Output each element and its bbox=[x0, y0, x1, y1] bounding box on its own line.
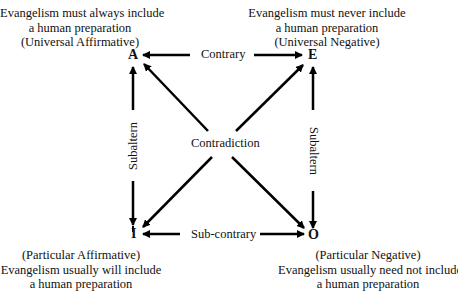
corner-o-description: (Particular Negative) Evangelism usually… bbox=[278, 248, 458, 292]
corner-e-line-3: (Universal Negative) bbox=[248, 35, 406, 50]
contrary-label: Contrary bbox=[201, 48, 245, 61]
corner-o-line-2: Evangelism usually need not include bbox=[278, 263, 458, 278]
corner-letter-e: E bbox=[308, 48, 317, 62]
corner-e-line-2: a human preparation bbox=[248, 21, 406, 36]
contradiction-arrow-to-i bbox=[143, 157, 212, 227]
corner-letter-i: I bbox=[131, 227, 136, 241]
contradiction-arrow-to-o bbox=[232, 157, 304, 228]
corner-letter-a: A bbox=[128, 48, 138, 62]
corner-i-description: (Particular Affirmative) Evangelism usua… bbox=[0, 248, 162, 292]
corner-a-line-2: a human preparation bbox=[0, 21, 160, 36]
corner-o-line-1: (Particular Negative) bbox=[278, 248, 458, 263]
corner-e-line-1: Evangelism must never include bbox=[248, 6, 406, 21]
corner-letter-o: O bbox=[308, 228, 319, 242]
corner-a-description: Evangelism must always include a human p… bbox=[0, 6, 160, 50]
corner-i-line-1: (Particular Affirmative) bbox=[0, 248, 162, 263]
subaltern-left-label: Subaltern bbox=[127, 122, 140, 170]
subcontrary-label: Sub-contrary bbox=[191, 228, 256, 241]
corner-e-description: Evangelism must never include a human pr… bbox=[248, 6, 406, 50]
contradiction-label: Contradiction bbox=[191, 137, 260, 150]
corner-a-line-1: Evangelism must always include bbox=[0, 6, 160, 21]
corner-i-line-2: Evangelism usually will include bbox=[0, 263, 162, 278]
contradiction-arrow-to-e bbox=[236, 65, 303, 131]
subaltern-right-label: Subaltern bbox=[307, 127, 320, 175]
corner-o-line-3: a human preparation bbox=[278, 277, 458, 292]
contradiction-arrow-to-a bbox=[144, 64, 208, 131]
corner-i-line-3: a human preparation bbox=[0, 277, 162, 292]
